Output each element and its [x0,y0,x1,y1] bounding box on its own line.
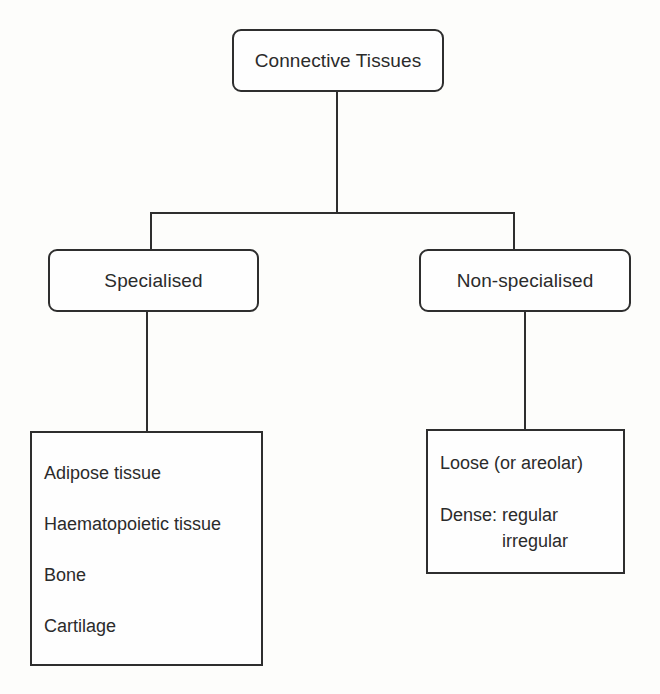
dense-value-regular: regular [502,502,568,528]
root-node-label: Connective Tissues [255,50,422,72]
non-specialised-tissue-list: Loose (or areolar) Dense: regular irregu… [426,429,625,574]
connector-horizontal-bar [150,212,515,214]
specialised-tissue-list: Adipose tissue Haematopoietic tissue Bon… [30,431,263,666]
list-item-haematopoietic-tissue: Haematopoietic tissue [44,514,221,535]
list-item-cartilage: Cartilage [44,616,116,637]
branch-node-specialised: Specialised [48,249,259,312]
connector-right-drop [513,212,515,250]
list-item-dense: Dense: regular irregular [440,502,568,554]
dense-values: regular irregular [502,502,568,554]
connector-root-stem [336,92,338,214]
dense-label: Dense: [440,502,497,528]
branch-node-specialised-label: Specialised [104,270,202,292]
list-item-adipose-tissue: Adipose tissue [44,463,161,484]
branch-node-non-specialised-label: Non-specialised [457,270,594,292]
connective-tissue-diagram: Connective Tissues Specialised Non-speci… [0,0,660,694]
root-node-connective-tissues: Connective Tissues [232,29,444,92]
dense-value-irregular: irregular [502,528,568,554]
list-item-loose-areolar: Loose (or areolar) [440,453,583,474]
branch-node-non-specialised: Non-specialised [419,249,631,312]
connector-specialised-stem [146,311,148,432]
connector-non-specialised-stem [524,311,526,430]
connector-left-drop [150,212,152,250]
list-item-bone: Bone [44,565,86,586]
